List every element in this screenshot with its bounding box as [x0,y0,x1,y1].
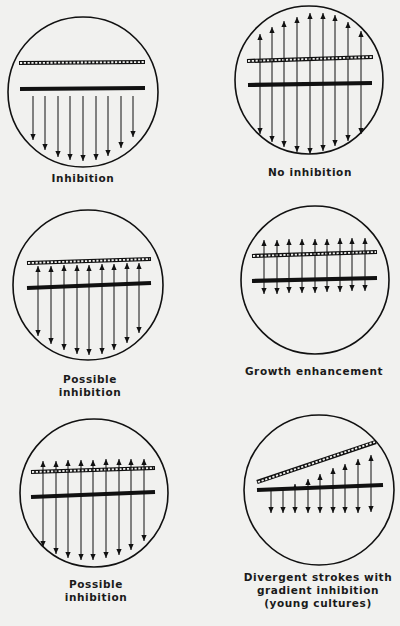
arrowhead-icon [358,31,363,37]
growth-arrow [292,484,297,513]
arrowhead-icon [80,155,85,161]
arrowhead-icon [111,344,116,350]
arrowhead-icon [257,34,262,40]
arrowhead-icon [317,507,322,513]
arrowhead-icon [286,287,291,293]
growth-arrow [93,96,98,160]
growth-arrow [40,461,45,547]
arrowhead-icon [307,13,312,19]
growth-arrow [136,263,141,333]
caption-no-inhibition: No inhibition [210,166,400,179]
arrowhead-icon [74,265,79,271]
growth-arrow [337,238,342,292]
solid-streak [20,88,145,89]
arrowhead-icon [141,459,146,465]
arrowhead-icon [269,27,274,33]
caption-growth-enhancement: Growth enhancement [214,365,400,378]
panel-growth-enhancement [241,206,389,354]
growth-arrow [332,15,337,146]
arrowhead-icon [93,154,98,160]
growth-arrow [99,264,104,354]
growth-arrow [55,96,60,157]
arrowhead-icon [86,349,91,355]
arrowhead-icon [274,240,279,246]
arrowhead-icon [280,507,285,513]
arrowhead-icon [292,507,297,513]
arrowhead-icon [307,148,312,154]
arrowhead-icon [124,263,129,269]
caption-line: gradient inhibition [218,584,400,597]
arrowhead-icon [274,288,279,294]
growth-arrow [111,264,116,350]
arrowhead-icon [141,535,146,541]
growth-arrow [286,239,291,293]
arrowhead-icon [261,240,266,246]
arrowhead-icon [55,151,60,157]
growth-arrow [268,490,273,513]
growth-arrow [65,460,70,558]
caption-line: inhibition [0,386,190,399]
growth-arrow [42,96,47,150]
arrowhead-icon [368,455,373,461]
arrowhead-icon [48,266,53,272]
figure-canvas [0,0,400,626]
arrowhead-icon [35,330,40,336]
growth-arrow [130,96,135,137]
growth-arrow [30,96,35,140]
arrowhead-icon [330,507,335,513]
panel-possible-inhibition-2 [20,419,168,567]
caption-possible-inhibition-2: Possibleinhibition [0,578,196,604]
arrowhead-icon [317,474,322,480]
hatched-streak [27,259,151,263]
caption-divergent-strokes: Divergent strokes withgradient inhibitio… [218,571,400,610]
arrowhead-icon [345,135,350,141]
arrowhead-icon [268,507,273,513]
growth-arrow [74,265,79,354]
arrowhead-icon [111,264,116,270]
arrowhead-icon [99,348,104,354]
hatched-streak [19,62,145,63]
arrowhead-icon [35,266,40,272]
arrowhead-icon [65,460,70,466]
arrowhead-icon [124,337,129,343]
arrowhead-icon [99,264,104,270]
panel-divergent-strokes [244,415,394,565]
arrowhead-icon [305,479,310,485]
growth-arrow [105,96,110,156]
arrowhead-icon [286,239,291,245]
arrowhead-icon [362,238,367,244]
arrowhead-icon [342,507,347,513]
arrowhead-icon [67,154,72,160]
caption-inhibition: Inhibition [0,172,183,185]
arrowhead-icon [61,344,66,350]
arrowhead-icon [362,285,367,291]
arrowhead-icon [342,464,347,470]
arrowhead-icon [281,21,286,27]
growth-arrow [305,479,310,513]
panel-inhibition [8,17,158,167]
caption-line: Possible [0,373,190,386]
caption-line: Inhibition [0,172,183,185]
arrowhead-icon [116,549,121,555]
panel-possible-inhibition-1 [13,210,163,360]
growth-arrow [312,239,317,293]
arrowhead-icon [90,460,95,466]
arrowhead-icon [128,544,133,550]
arrowhead-icon [42,144,47,150]
growth-arrow [86,265,91,355]
arrowhead-icon [103,552,108,558]
growth-arrow [280,490,285,513]
arrowhead-icon [105,150,110,156]
arrowhead-icon [337,238,342,244]
growth-arrow [324,239,329,292]
growth-arrow [61,265,66,350]
arrowhead-icon [332,15,337,21]
arrowhead-icon [294,17,299,23]
arrowhead-icon [136,327,141,333]
arrowhead-icon [53,461,58,467]
arrowhead-icon [305,507,310,513]
arrowhead-icon [86,265,91,271]
arrowhead-icon [355,459,360,465]
growth-arrow [124,263,129,343]
arrowhead-icon [78,460,83,466]
